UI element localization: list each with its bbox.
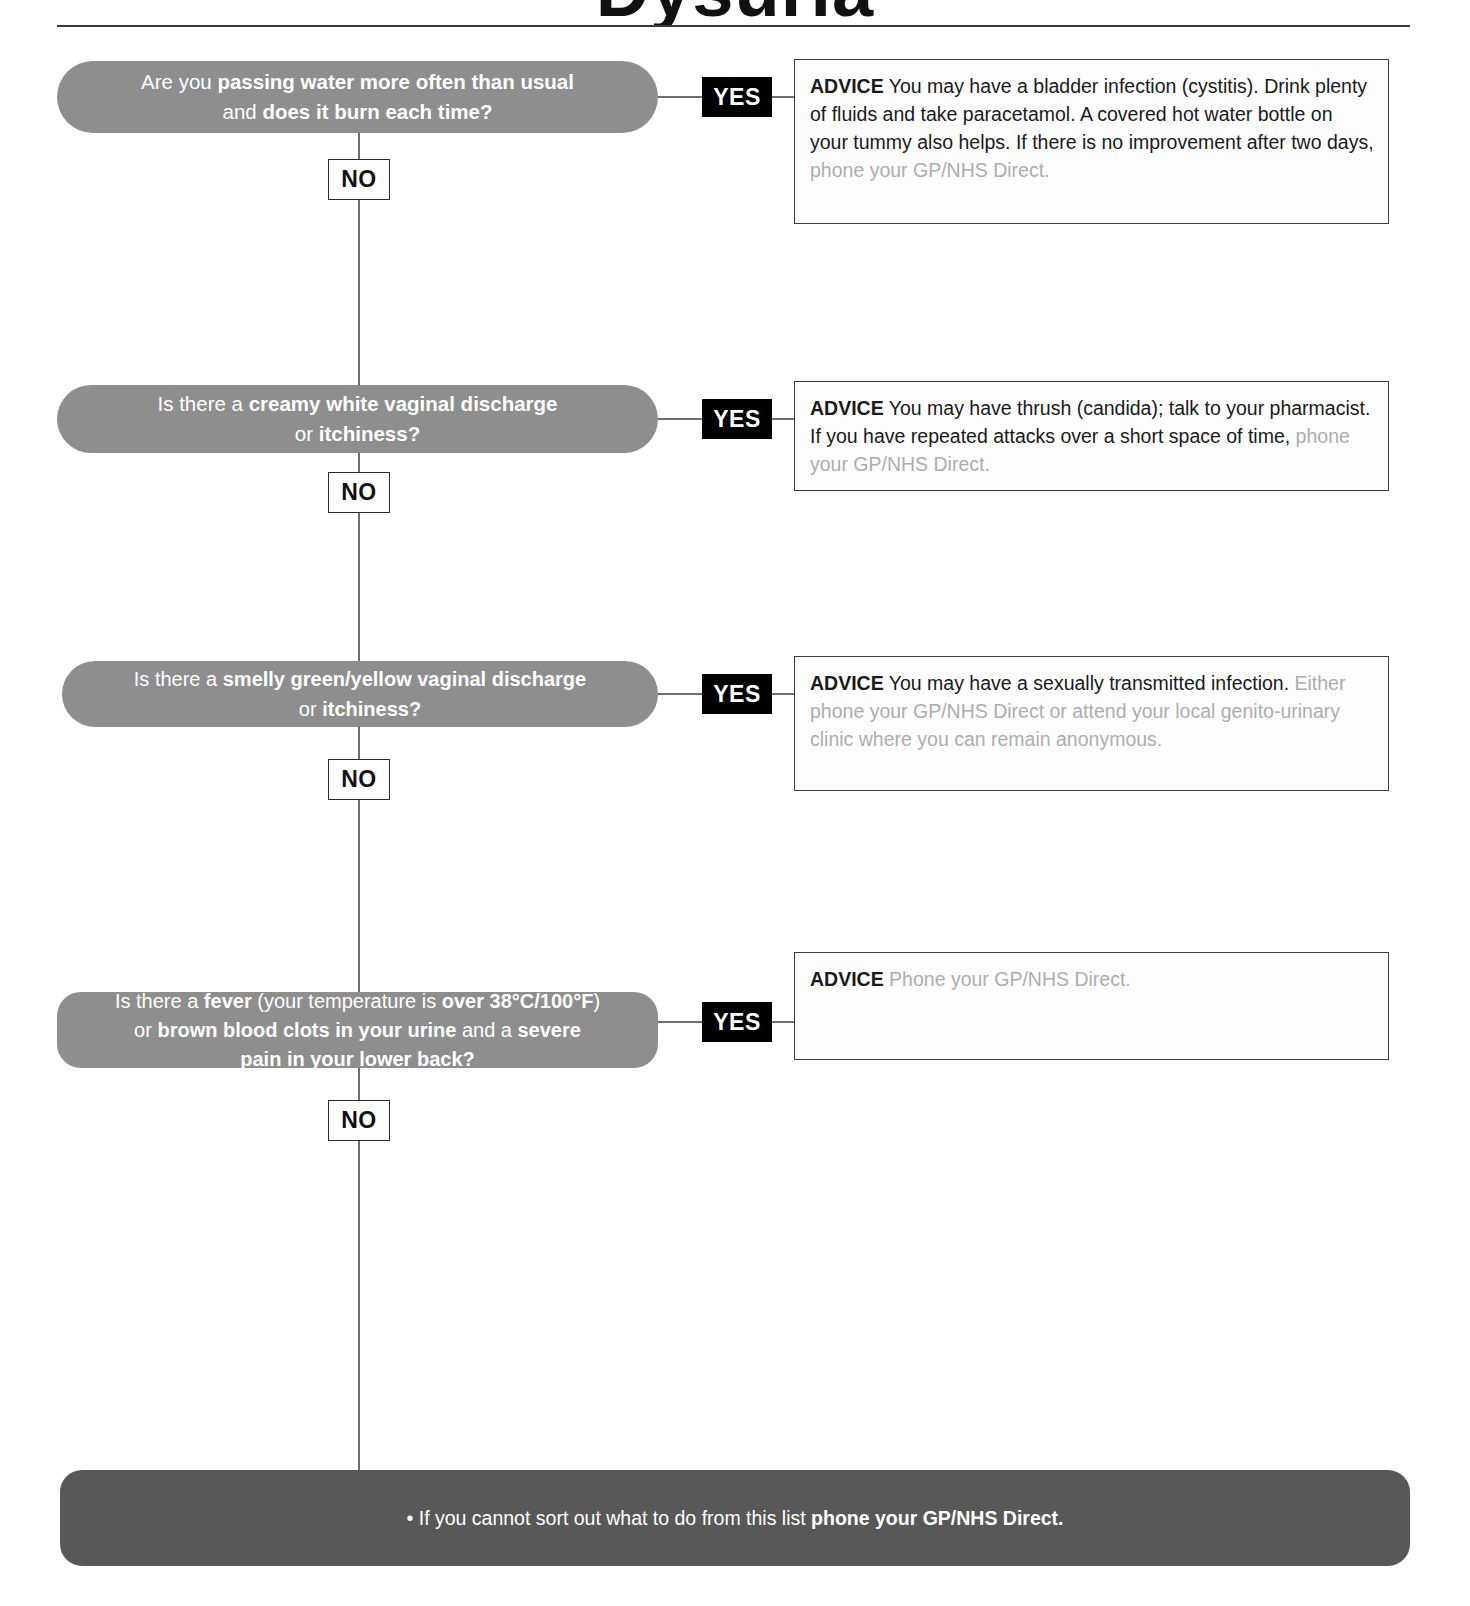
advice-box-4: ADVICE Phone your GP/NHS Direct.: [794, 952, 1389, 1060]
flow-spine-segment-3: [358, 452, 360, 474]
yes-badge-4[interactable]: YES: [702, 1002, 772, 1042]
question-bubble-3-text: Is there a smelly green/yellow vaginal d…: [92, 664, 628, 724]
question-bubble-1[interactable]: Are you passing water more often than us…: [57, 61, 658, 133]
flow-spine-segment-8: [358, 1141, 360, 1477]
connector-yes3-to-advice3: [772, 693, 794, 695]
no-badge-2[interactable]: NO: [328, 472, 390, 513]
advice-box-2: ADVICE You may have thrush (candida); ta…: [794, 381, 1389, 491]
bottom-banner-text: • If you cannot sort out what to do from…: [406, 1507, 1063, 1530]
connector-yes2-to-advice2: [772, 418, 794, 420]
connector-bubble4-to-yes4: [658, 1021, 702, 1023]
connector-bubble3-to-yes3: [658, 693, 702, 695]
advice-box-3: ADVICE You may have a sexually transmitt…: [794, 656, 1389, 791]
connector-yes1-to-advice1: [772, 96, 794, 98]
page-title-text: Dysuria: [0, 0, 1470, 26]
connector-bubble2-to-yes2: [658, 418, 702, 420]
no-badge-4[interactable]: NO: [328, 1100, 390, 1141]
connector-bubble1-to-yes1: [658, 96, 702, 98]
question-bubble-2[interactable]: Is there a creamy white vaginal discharg…: [57, 385, 658, 453]
question-bubble-4-text: Is there a fever (your temperature is ov…: [87, 987, 628, 1074]
header-divider: [57, 25, 1410, 27]
flow-spine-segment-1: [358, 133, 360, 161]
bottom-advice-banner: • If you cannot sort out what to do from…: [60, 1470, 1410, 1566]
flow-spine-segment-6: [358, 800, 360, 992]
flow-spine-segment-5: [358, 726, 360, 761]
question-bubble-1-text: Are you passing water more often than us…: [87, 67, 628, 127]
yes-badge-1[interactable]: YES: [702, 77, 772, 117]
question-bubble-3[interactable]: Is there a smelly green/yellow vaginal d…: [62, 661, 658, 727]
page-title-cropped: Dysuria: [0, 0, 1470, 26]
connector-yes4-to-advice4: [772, 1021, 794, 1023]
flow-spine-segment-2: [358, 199, 360, 385]
no-badge-1[interactable]: NO: [328, 159, 390, 200]
yes-badge-2[interactable]: YES: [702, 399, 772, 439]
question-bubble-4[interactable]: Is there a fever (your temperature is ov…: [57, 992, 658, 1068]
flow-spine-segment-4: [358, 513, 360, 661]
no-badge-3[interactable]: NO: [328, 759, 390, 800]
yes-badge-3[interactable]: YES: [702, 674, 772, 714]
advice-box-1: ADVICE You may have a bladder infection …: [794, 59, 1389, 224]
question-bubble-2-text: Is there a creamy white vaginal discharg…: [87, 389, 628, 449]
